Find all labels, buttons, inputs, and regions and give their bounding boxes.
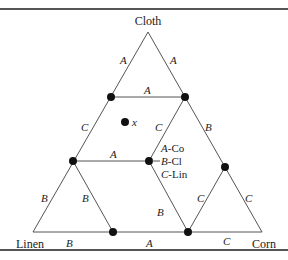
point-x-label: x (131, 116, 137, 128)
inner-left-down-line (73, 161, 113, 232)
vertex-label-corn: Corn (252, 237, 276, 251)
edge-label: A (109, 148, 117, 160)
edge-label: A (145, 237, 153, 249)
node-dot (69, 157, 77, 165)
edge-label: C (155, 121, 163, 133)
edge-label: A (143, 84, 151, 96)
vertex-label-linen: Linen (16, 237, 44, 251)
edge-label: B (205, 121, 212, 133)
node-dot (145, 157, 153, 165)
edge-label: C (81, 121, 89, 133)
edge-label: C (223, 235, 231, 247)
node-dot (184, 228, 192, 236)
ternary-diagram: Cloth Linen Corn x A A A C C B A B B B C… (0, 0, 288, 260)
outer-triangle (33, 32, 262, 232)
node-dot (221, 163, 229, 171)
edge-label: B (157, 206, 164, 218)
edge-label: C (197, 192, 205, 204)
legend: A-Co B-Cl C-Lin (160, 142, 188, 180)
vertex-label-cloth: Cloth (135, 14, 162, 28)
edge-label: A (119, 54, 127, 66)
legend-item: A-Co (160, 142, 185, 154)
node-dot (107, 93, 115, 101)
edge-label: A (169, 54, 177, 66)
legend-item: B-Cl (161, 155, 182, 167)
node-dot (181, 93, 189, 101)
edge-label: C (245, 192, 253, 204)
edge-label: B (82, 192, 89, 204)
edge-label: B (41, 192, 48, 204)
legend-item: C-Lin (161, 168, 188, 180)
edge-label: B (66, 237, 73, 249)
point-x-dot (121, 118, 129, 126)
node-dot (109, 228, 117, 236)
inner-right-up-line (188, 167, 225, 232)
